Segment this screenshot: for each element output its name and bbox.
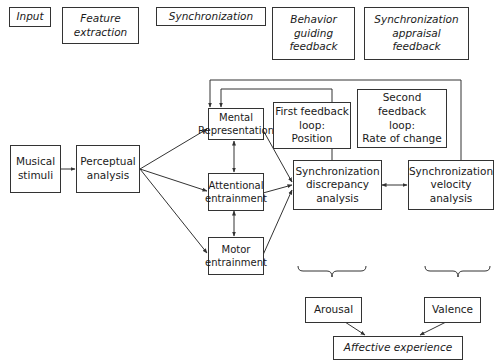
legend-behavior-guiding-feedback: Behavior guiding feedback [272,7,355,60]
legend-synchronization-appraisal-feedback: Synchronization appraisal feedback [364,7,469,60]
legend-synchronization: Synchronization [156,7,266,26]
node-perceptual-analysis: Perceptual analysis [76,145,140,193]
node-second-feedback-loop: Second feedback loop: Rate of change [357,89,447,148]
node-musical-stimuli: Musical stimuli [10,145,61,193]
node-first-feedback-loop: First feedback loop: Position [273,102,351,149]
node-affective-experience: Affective experience [333,336,463,360]
node-attentional-entrainment: Attentional entrainment [208,173,264,211]
node-synchronization-velocity-analysis: Synchronization velocity analysis [408,160,494,210]
node-valence: Valence [424,297,481,323]
node-synchronization-discrepancy-analysis: Synchronization discrepancy analysis [293,160,382,210]
node-arousal: Arousal [305,297,362,323]
legend-input: Input [9,7,51,27]
node-mental-representation: Mental Representation [208,108,264,140]
node-motor-entrainment: Motor entrainment [208,237,264,275]
legend-feature-extraction: Feature extraction [62,7,139,44]
